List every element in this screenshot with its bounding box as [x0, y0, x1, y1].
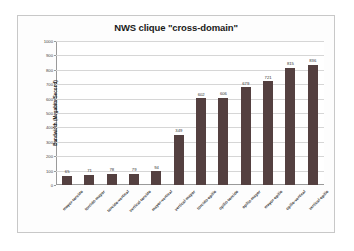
bar-value-label: 65	[65, 169, 70, 174]
bar-slot: 94	[145, 41, 167, 185]
plot-area: Bandwidth (Megabits/Second) 010020030040…	[56, 41, 324, 185]
bar[interactable]	[62, 176, 72, 185]
x-label-slot: torcido-mayor	[78, 187, 100, 247]
bar[interactable]	[196, 98, 206, 185]
x-label-slot: torcido-opilio	[190, 187, 212, 247]
x-label-slot: mayor-torcido	[56, 187, 78, 247]
bar-value-label: 78	[109, 167, 114, 172]
bar-slot: 65	[56, 41, 78, 185]
y-tick-label: 700	[46, 82, 53, 87]
x-label-slot: vertical-mayor	[168, 187, 190, 247]
y-tick-mark	[54, 185, 56, 186]
y-tick-label: 800	[46, 67, 53, 72]
x-label-slot: opilio-vertical	[279, 187, 301, 247]
bar-value-label: 71	[87, 168, 92, 173]
bar-slot: 836	[302, 41, 324, 185]
bar-value-label: 679	[242, 81, 249, 86]
bar-slot: 721	[257, 41, 279, 185]
chart-title: NWS clique "cross-domain"	[18, 22, 334, 33]
bar-value-label: 606	[220, 91, 227, 96]
x-axis-labels: mayor-torcidotorcido-mayortorcido-vertic…	[56, 187, 324, 247]
bar-slot: 78	[101, 41, 123, 185]
bar-slot: 79	[123, 41, 145, 185]
y-tick-label: 400	[46, 125, 53, 130]
bar-slot: 815	[279, 41, 301, 185]
y-tick-label: 900	[46, 53, 53, 58]
bar[interactable]	[129, 174, 139, 185]
x-axis-label: vertical-opilio	[307, 189, 329, 211]
x-label-slot: opilio-torcido	[212, 187, 234, 247]
bar-slot: 71	[78, 41, 100, 185]
bar[interactable]	[241, 87, 251, 185]
bar-slot: 606	[212, 41, 234, 185]
bar-value-label: 79	[132, 167, 137, 172]
y-tick-label: 200	[46, 154, 53, 159]
bar[interactable]	[308, 65, 318, 185]
bar[interactable]	[263, 81, 273, 185]
bar[interactable]	[174, 135, 184, 185]
bar-value-label: 602	[198, 92, 205, 97]
chart-container: NWS clique "cross-domain" Bandwidth (Meg…	[17, 15, 335, 233]
y-tick-label: 600	[46, 96, 53, 101]
bar[interactable]	[84, 175, 94, 185]
bar[interactable]	[218, 98, 228, 185]
bar[interactable]	[151, 171, 161, 185]
x-label-slot: opilio-mayor	[235, 187, 257, 247]
bar-series: 6571787994349602606679721815836	[56, 41, 324, 185]
x-label-slot: torcido-vertical	[101, 187, 123, 247]
bar-value-label: 349	[175, 128, 182, 133]
bar-value-label: 721	[265, 75, 272, 80]
bar-value-label: 815	[287, 61, 294, 66]
bar-slot: 602	[190, 41, 212, 185]
bar-value-label: 94	[154, 165, 159, 170]
y-tick-label: 0	[51, 183, 53, 188]
y-tick-label: 100	[46, 168, 53, 173]
x-label-slot: mayor-opilio	[257, 187, 279, 247]
bar[interactable]	[107, 174, 117, 185]
bar-slot: 679	[235, 41, 257, 185]
y-tick-label: 500	[46, 111, 53, 116]
x-label-slot: mayor-vertical	[145, 187, 167, 247]
x-label-slot: vertical-torcido	[123, 187, 145, 247]
bar-value-label: 836	[309, 58, 316, 63]
bar-slot: 349	[168, 41, 190, 185]
y-tick-label: 300	[46, 139, 53, 144]
x-label-slot: vertical-opilio	[302, 187, 324, 247]
y-tick-label: 1000	[44, 39, 53, 44]
bar[interactable]	[285, 68, 295, 185]
